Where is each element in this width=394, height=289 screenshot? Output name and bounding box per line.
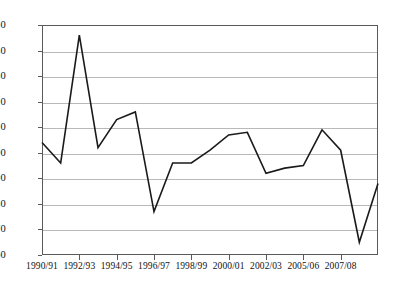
data-series-layer [0,0,394,289]
series-line-index [42,35,378,242]
line-chart: 60708090100110120130140150 1990/911992/9… [0,0,394,289]
